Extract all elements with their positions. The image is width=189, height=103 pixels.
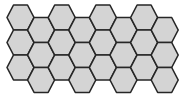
hexagon-cell: [151, 43, 178, 68]
hexagon-cell: [151, 18, 178, 43]
hexagon-cell: [151, 68, 178, 93]
hexagon-grid: [0, 0, 189, 103]
